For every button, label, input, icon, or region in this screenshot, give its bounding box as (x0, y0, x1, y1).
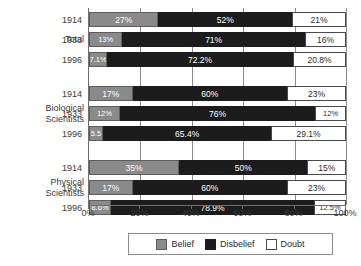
year-label: 1996 (52, 55, 82, 65)
gridline-100pct (346, 8, 347, 205)
chart-legend: Belief Disbelief Doubt (128, 233, 333, 255)
year-label: 1933 (52, 109, 82, 119)
bar-segment-doubt: 29.1% (271, 126, 346, 141)
bar-segment-belief: 27% (89, 12, 158, 27)
bar-segment-doubt: 15% (307, 160, 346, 175)
bar-row: 13%71%16% (89, 32, 345, 47)
legend-label-doubt: Doubt (281, 239, 305, 249)
bar-segment-belief: 12% (89, 106, 120, 121)
bar-segment-belief: 17% (89, 180, 133, 195)
bar-row: 27%52%21% (89, 12, 345, 27)
bar-segment-disbelief: 52% (158, 12, 292, 27)
bar-segment-disbelief: 50% (179, 160, 308, 175)
bar-row: 5.565.4%29.1% (89, 126, 345, 141)
x-tick-label: 100% (325, 208, 361, 218)
x-tick-label: 80% (274, 208, 314, 218)
bar-segment-belief: 5.5 (89, 126, 103, 141)
x-tick-label: 60% (222, 208, 262, 218)
bar-segment-disbelief: 60% (133, 180, 287, 195)
legend-label-disbelief: Disbelief (220, 239, 255, 249)
year-label: 1914 (52, 89, 82, 99)
bar-row: 17%60%23% (89, 180, 345, 195)
category-axis: TotalBiologicalScientistsPhysicalScienti… (0, 8, 84, 205)
bar-segment-disbelief: 65.4% (103, 126, 271, 141)
year-label: 1914 (52, 15, 82, 25)
bar-row: 17%60%23% (89, 86, 345, 101)
x-tick-label: 0% (68, 208, 108, 218)
legend-label-belief: Belief (171, 239, 194, 249)
bar-segment-doubt: 23% (287, 86, 346, 101)
x-tick-label: 40% (171, 208, 211, 218)
legend-item-belief: Belief (156, 239, 194, 250)
legend-swatch-belief (156, 239, 167, 250)
bar-row: 12%76%12% (89, 106, 345, 121)
year-label: 1996 (52, 129, 82, 139)
bar-segment-belief: 35% (89, 160, 179, 175)
legend-item-doubt: Doubt (266, 239, 305, 250)
legend-swatch-doubt (266, 239, 277, 250)
bar-segment-doubt: 23% (287, 180, 346, 195)
x-tick-label: 20% (119, 208, 159, 218)
bar-segment-doubt: 16% (305, 32, 346, 47)
bar-segment-doubt: 21% (292, 12, 346, 27)
bar-segment-doubt: 12% (315, 106, 346, 121)
legend-item-disbelief: Disbelief (205, 239, 255, 250)
plot-area: 27%52%21%13%71%16%7.1%72.2%20.8%17%60%23… (88, 8, 345, 205)
x-axis-line (88, 205, 345, 206)
bar-segment-disbelief: 76% (120, 106, 315, 121)
bar-segment-belief: 7.1% (89, 52, 107, 67)
bar-segment-disbelief: 60% (133, 86, 287, 101)
bar-row: 7.1%72.2%20.8% (89, 52, 345, 67)
bar-segment-disbelief: 72.2% (107, 52, 293, 67)
bar-row: 35%50%15% (89, 160, 345, 175)
bar-segment-belief: 13% (89, 32, 122, 47)
year-label: 1914 (52, 163, 82, 173)
bar-segment-doubt: 20.8% (293, 52, 346, 67)
bar-segment-belief: 17% (89, 86, 133, 101)
year-label: 1933 (52, 35, 82, 45)
year-label: 1933 (52, 183, 82, 193)
stacked-bar-chart: 27%52%21%13%71%16%7.1%72.2%20.8%17%60%23… (0, 0, 361, 266)
legend-swatch-disbelief (205, 239, 216, 250)
bar-segment-disbelief: 71% (122, 32, 304, 47)
